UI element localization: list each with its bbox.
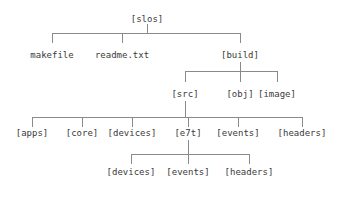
node-e7t-events[interactable]: [events]	[166, 167, 209, 178]
node-events[interactable]: [events]	[216, 128, 259, 139]
node-readme-txt[interactable]: readme.txt	[95, 50, 149, 61]
node-slos[interactable]: [slos]	[131, 14, 164, 25]
node-image[interactable]: [image]	[258, 89, 296, 100]
node-e7t-headers[interactable]: [headers]	[225, 167, 274, 178]
node-build[interactable]: [build]	[221, 50, 259, 61]
edge-drop-apps	[32, 117, 33, 127]
edge-drop-build	[240, 33, 241, 43]
edge-drop-events	[238, 117, 239, 127]
edge-drop-e7t-events	[188, 154, 189, 164]
edge-drop-obj	[240, 71, 241, 82]
node-obj[interactable]: [obj]	[226, 89, 253, 100]
edge-drop-e7t-headers	[249, 154, 250, 164]
edge-build-stem	[240, 62, 241, 71]
edge-drop-image	[277, 71, 278, 82]
node-makefile[interactable]: makefile	[30, 50, 73, 61]
node-src[interactable]: [src]	[171, 89, 198, 100]
node-e7t[interactable]: [e7t]	[174, 128, 201, 139]
edge-drop-e7t	[188, 117, 189, 127]
edge-drop-src	[185, 71, 186, 82]
edge-slos-stem	[147, 24, 148, 33]
edge-bus-level1	[52, 33, 241, 34]
edge-drop-devices	[132, 117, 133, 127]
edge-drop-readme	[122, 33, 123, 43]
edge-e7t-stem	[188, 140, 189, 154]
edge-drop-core	[82, 117, 83, 127]
node-e7t-devices[interactable]: [devices]	[107, 167, 156, 178]
edge-drop-e7t-devices	[131, 154, 132, 164]
edge-bus-level2	[185, 71, 278, 72]
edge-bus-level4	[131, 154, 250, 155]
edge-bus-level3	[32, 117, 303, 118]
node-apps[interactable]: [apps]	[16, 128, 49, 139]
node-headers[interactable]: [headers]	[278, 128, 327, 139]
directory-tree-diagram: [slos] makefile readme.txt [build] [src]…	[0, 0, 341, 200]
edge-src-stem	[185, 101, 186, 118]
node-core[interactable]: [core]	[66, 128, 99, 139]
edge-drop-headers	[302, 117, 303, 127]
edge-drop-makefile	[52, 33, 53, 43]
node-devices[interactable]: [devices]	[108, 128, 157, 139]
